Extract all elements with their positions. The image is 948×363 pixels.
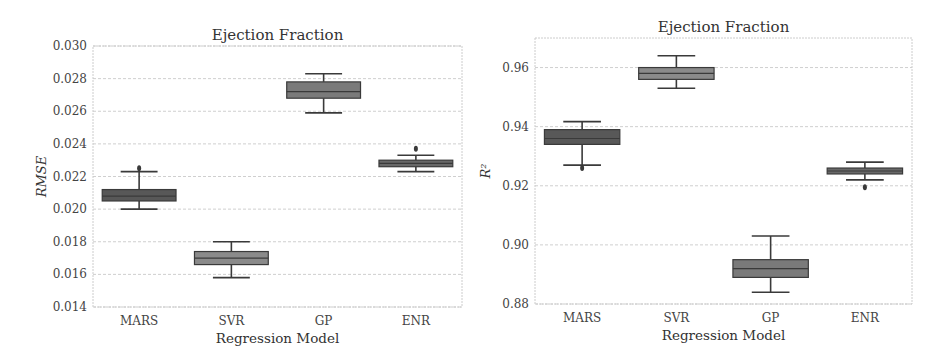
box-mars bbox=[544, 122, 619, 171]
y-tick-label: 0.96 bbox=[502, 61, 529, 75]
x-tick-label: SVR bbox=[218, 314, 245, 328]
y-tick-label: 0.016 bbox=[53, 267, 87, 281]
outlier-point bbox=[137, 165, 141, 171]
figure: 0.0140.0160.0180.0200.0220.0240.0260.028… bbox=[0, 0, 948, 363]
x-axis-label: Regression Model bbox=[662, 327, 785, 343]
y-tick-label: 0.024 bbox=[53, 137, 88, 151]
y-tick-label: 0.026 bbox=[53, 104, 87, 118]
y-tick-label: 0.92 bbox=[502, 179, 529, 193]
box-svr bbox=[194, 242, 268, 278]
y-tick-label: 0.94 bbox=[502, 120, 529, 134]
y-tick-label: 0.90 bbox=[502, 238, 529, 252]
box-gp bbox=[287, 74, 361, 113]
x-axis-label: Regression Model bbox=[216, 330, 339, 346]
iqr-box bbox=[544, 130, 619, 145]
x-tick-label: GP bbox=[315, 314, 333, 328]
y-tick-label: 0.018 bbox=[53, 235, 87, 249]
outlier-point bbox=[580, 165, 584, 171]
box-enr bbox=[379, 146, 453, 172]
x-tick-label: MARS bbox=[120, 314, 158, 328]
outlier-point bbox=[414, 146, 418, 152]
outlier-point bbox=[863, 184, 867, 190]
y-tick-label: 0.028 bbox=[53, 72, 87, 86]
y-axis-label: RMSE bbox=[34, 155, 49, 198]
y-axis-label: R² bbox=[478, 164, 493, 180]
chart-title: Ejection Fraction bbox=[658, 18, 790, 36]
x-tick-label: ENR bbox=[402, 314, 431, 328]
x-tick-label: SVR bbox=[663, 311, 690, 325]
x-tick-label: ENR bbox=[851, 311, 880, 325]
iqr-box bbox=[287, 82, 361, 98]
y-tick-label: 0.014 bbox=[53, 300, 88, 314]
box-mars bbox=[102, 165, 176, 209]
iqr-box bbox=[102, 190, 176, 201]
y-tick-label: 0.022 bbox=[53, 170, 87, 184]
x-tick-label: MARS bbox=[563, 311, 601, 325]
y-tick-label: 0.020 bbox=[53, 202, 87, 216]
y-tick-label: 0.030 bbox=[53, 39, 87, 53]
r2-boxplot: 0.880.900.920.940.96MARSSVRGPENREjection… bbox=[474, 0, 948, 363]
y-tick-label: 0.88 bbox=[502, 297, 529, 311]
x-tick-label: GP bbox=[762, 311, 780, 325]
chart-title: Ejection Fraction bbox=[212, 26, 344, 44]
rmse-boxplot: 0.0140.0160.0180.0200.0220.0240.0260.028… bbox=[0, 0, 474, 363]
box-svr bbox=[639, 56, 714, 89]
